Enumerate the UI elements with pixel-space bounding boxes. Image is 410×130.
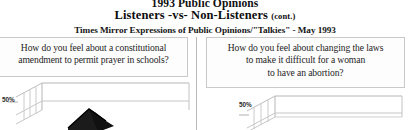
panel-prayer-in-schools: How do you feel about a constitutional a… [0, 33, 195, 130]
chart-left: 50% [0, 80, 195, 130]
slide-title-line-2: Listeners -vs- Non-Listeners (cont.) [0, 9, 410, 24]
slide-subtitle-continued: (cont.) [271, 11, 295, 21]
chart-right-y-axis-label: 50% [239, 101, 252, 108]
chart-right: 50% [203, 91, 410, 130]
chart-left-y-axis-label: 50% [2, 96, 15, 103]
slide-canvas: 1993 Public Opinions Listeners -vs- Non-… [0, 0, 410, 130]
slide-title-block: 1993 Public Opinions Listeners -vs- Non-… [0, 0, 410, 36]
chart-right-graphic [203, 91, 410, 130]
panel-divider [196, 37, 197, 130]
panel-abortion-laws: How do you feel about changing the laws … [203, 33, 410, 130]
question-text-left: How do you feel about a constitutional a… [4, 42, 183, 67]
question-box-left: How do you feel about a constitutional a… [0, 37, 188, 77]
chart-left-graphic [0, 80, 195, 130]
question-text-right: How do you feel about changing the laws … [211, 42, 400, 79]
question-box-right: How do you feel about changing the laws … [206, 37, 405, 88]
slide-subtitle-main: Listeners -vs- Non-Listeners [115, 8, 268, 22]
